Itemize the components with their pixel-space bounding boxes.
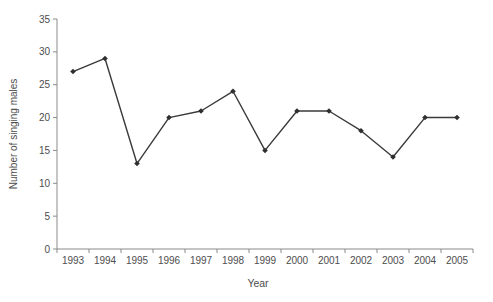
data-series	[70, 56, 460, 167]
y-axis-title: Number of singing males	[8, 79, 19, 190]
x-axis: 1993199419951996199719981999200020012002…	[57, 249, 473, 266]
x-tick-label: 2004	[414, 255, 437, 266]
data-point-marker	[70, 69, 76, 75]
x-tick-label: 2003	[382, 255, 405, 266]
x-tick-label: 1994	[94, 255, 117, 266]
x-tick-label: 1997	[190, 255, 213, 266]
x-tick-label: 2000	[286, 255, 309, 266]
x-tick-label: 1996	[158, 255, 181, 266]
y-tick-label: 10	[39, 178, 51, 189]
x-tick-label: 2002	[350, 255, 373, 266]
y-tick-label: 30	[39, 46, 51, 57]
y-tick-label: 35	[39, 14, 51, 25]
x-tick-label: 1995	[126, 255, 149, 266]
chart-canvas: 05101520253035 1993199419951996199719981…	[0, 0, 493, 302]
x-tick-label: 1999	[254, 255, 277, 266]
x-tick-label: 1993	[62, 255, 85, 266]
y-tick-label: 25	[39, 79, 51, 90]
x-axis-title: Year	[247, 277, 269, 289]
y-tick-label: 15	[39, 145, 51, 156]
x-tick-label: 1998	[222, 255, 245, 266]
y-tick-label: 5	[44, 211, 50, 222]
data-point-marker	[102, 56, 108, 62]
x-tick-label: 2001	[318, 255, 341, 266]
y-tick-label: 20	[39, 112, 51, 123]
data-point-marker	[454, 115, 460, 121]
y-tick-label: 0	[44, 244, 50, 255]
x-tick-label: 2005	[446, 255, 469, 266]
line-chart-figure: 05101520253035 1993199419951996199719981…	[0, 0, 493, 302]
y-axis: 05101520253035	[39, 14, 57, 255]
